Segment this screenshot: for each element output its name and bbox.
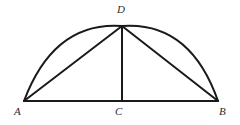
figure-canvas: A B C D	[0, 0, 240, 125]
segment-db	[122, 26, 218, 101]
vertex-label-d: D	[117, 4, 125, 15]
segment-ad	[24, 26, 122, 101]
vertex-label-b: B	[219, 106, 226, 117]
vertex-label-c: C	[115, 106, 122, 117]
vertex-label-a: A	[14, 106, 21, 117]
